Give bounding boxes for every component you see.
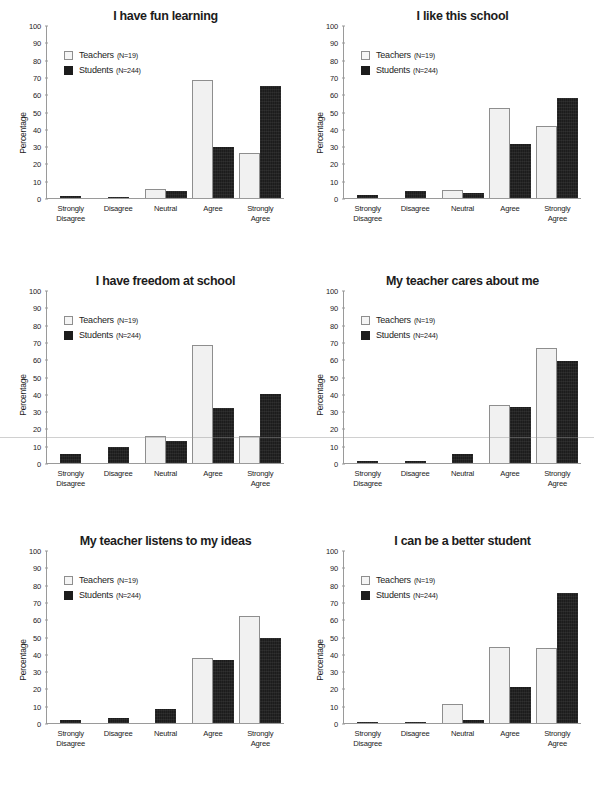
y-tick-label: 40	[330, 125, 338, 134]
y-tick-label: 50	[330, 108, 338, 117]
legend-label-students: Students	[79, 330, 113, 340]
chart-legend: Teachers(N=19)Students(N=244)	[361, 315, 438, 345]
x-tick-line: Disagree	[391, 204, 438, 214]
legend-swatch-students	[361, 591, 370, 600]
x-tick-label: StronglyAgree	[534, 724, 581, 748]
bar-students[interactable]	[357, 195, 378, 198]
bar-students[interactable]	[405, 722, 426, 723]
bar-students[interactable]	[108, 718, 129, 723]
legend-item-teachers[interactable]: Teachers(N=19)	[64, 315, 141, 325]
bar-teachers[interactable]	[145, 189, 166, 198]
bar-teachers[interactable]	[536, 348, 557, 463]
chart-panel-5: My teacher listens to my ideasPercentage…	[0, 525, 297, 795]
bar-students[interactable]	[405, 461, 426, 463]
bar-students[interactable]	[452, 454, 473, 463]
bar-group	[486, 291, 533, 463]
legend-item-teachers[interactable]: Teachers(N=19)	[361, 50, 438, 60]
bar-students[interactable]	[260, 638, 281, 723]
plot-area: Percentage0102030405060708090100Strongly…	[297, 0, 594, 265]
legend-label-teachers: Teachers	[376, 315, 411, 325]
bar-students[interactable]	[463, 720, 484, 723]
bar-teachers[interactable]	[239, 153, 260, 198]
bar-teachers[interactable]	[442, 704, 463, 723]
bar-group	[237, 26, 284, 198]
legend-item-teachers[interactable]: Teachers(N=19)	[64, 575, 141, 585]
bar-students[interactable]	[213, 147, 234, 198]
bar-students[interactable]	[108, 197, 129, 198]
legend-label-teachers: Teachers	[376, 575, 411, 585]
bar-students[interactable]	[557, 98, 578, 198]
bar-students[interactable]	[155, 709, 176, 723]
legend-item-students[interactable]: Students(N=244)	[361, 65, 438, 75]
y-tick-label: 30	[33, 143, 41, 152]
legend-swatch-teachers	[361, 316, 370, 325]
legend-label-students: Students	[376, 590, 410, 600]
x-tick-line: Agree	[189, 204, 236, 214]
bar-students[interactable]	[260, 86, 281, 198]
x-tick-label: StronglyAgree	[237, 199, 284, 223]
x-tick-label: StronglyDisagree	[47, 724, 94, 748]
bar-teachers[interactable]	[239, 616, 260, 723]
bar-students[interactable]	[166, 441, 187, 463]
bar-teachers[interactable]	[192, 80, 213, 198]
y-tick-label: 70	[330, 338, 338, 347]
bar-group	[486, 26, 533, 198]
legend-swatch-teachers	[64, 316, 73, 325]
bar-students[interactable]	[260, 394, 281, 463]
x-tick-group: StronglyDisagreeDisagreeNeutralAgreeStro…	[47, 724, 284, 748]
y-tick-label: 70	[33, 338, 41, 347]
bar-students[interactable]	[510, 687, 531, 723]
x-tick-group: StronglyDisagreeDisagreeNeutralAgreeStro…	[47, 464, 284, 488]
legend-item-teachers[interactable]: Teachers(N=19)	[64, 50, 141, 60]
legend-count-students: (N=244)	[116, 591, 141, 600]
bar-students[interactable]	[405, 191, 426, 198]
legend-item-students[interactable]: Students(N=244)	[64, 65, 141, 75]
bar-students[interactable]	[357, 461, 378, 463]
bar-group	[486, 551, 533, 723]
bar-students[interactable]	[357, 722, 378, 723]
legend-label-students: Students	[376, 330, 410, 340]
legend-count-teachers: (N=19)	[117, 51, 138, 60]
x-tick-line: Agree	[189, 469, 236, 479]
bar-students[interactable]	[463, 193, 484, 198]
bar-students[interactable]	[213, 660, 234, 723]
legend-item-students[interactable]: Students(N=244)	[64, 590, 141, 600]
bar-students[interactable]	[213, 408, 234, 463]
legend-count-students: (N=244)	[413, 331, 438, 340]
bar-teachers[interactable]	[192, 345, 213, 463]
bar-students[interactable]	[510, 407, 531, 463]
bar-students[interactable]	[60, 454, 81, 463]
chart-legend: Teachers(N=19)Students(N=244)	[64, 575, 141, 605]
legend-item-teachers[interactable]: Teachers(N=19)	[361, 575, 438, 585]
bar-students[interactable]	[60, 720, 81, 723]
bar-teachers[interactable]	[442, 190, 463, 198]
legend-item-students[interactable]: Students(N=244)	[361, 330, 438, 340]
bar-students[interactable]	[557, 593, 578, 723]
y-tick-label: 80	[33, 581, 41, 590]
y-tick-label: 90	[33, 304, 41, 313]
bar-teachers[interactable]	[192, 658, 213, 723]
bar-teachers[interactable]	[239, 436, 260, 463]
bar-teachers[interactable]	[536, 648, 557, 723]
bar-students[interactable]	[108, 447, 129, 463]
legend-count-teachers: (N=19)	[414, 51, 435, 60]
y-tick-label: 90	[330, 304, 338, 313]
legend-label-students: Students	[376, 65, 410, 75]
legend-item-teachers[interactable]: Teachers(N=19)	[361, 315, 438, 325]
chart-panel-4: My teacher cares about mePercentage01020…	[297, 265, 594, 525]
x-tick-line: Strongly	[237, 204, 284, 214]
legend-item-students[interactable]: Students(N=244)	[361, 590, 438, 600]
bar-students[interactable]	[510, 144, 531, 198]
bar-students[interactable]	[60, 196, 81, 198]
bar-students[interactable]	[166, 191, 187, 198]
bar-teachers[interactable]	[145, 436, 166, 463]
bar-teachers[interactable]	[536, 126, 557, 198]
bar-teachers[interactable]	[489, 647, 510, 723]
bar-teachers[interactable]	[489, 108, 510, 198]
y-tick-label: 30	[330, 143, 338, 152]
bar-group	[189, 551, 236, 723]
legend-item-students[interactable]: Students(N=244)	[64, 330, 141, 340]
y-tick-label: 60	[33, 356, 41, 365]
bar-teachers[interactable]	[489, 405, 510, 463]
bar-students[interactable]	[557, 361, 578, 463]
